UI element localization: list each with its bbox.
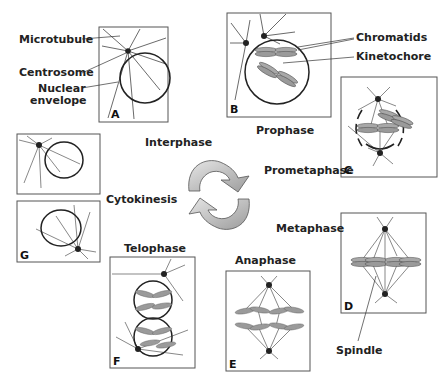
panel-letter-f: F: [113, 356, 121, 367]
label-anaphase: Anaphase: [235, 255, 296, 267]
label-centrosome: Centrosome: [19, 67, 94, 79]
label-chromatids: Chromatids: [356, 32, 427, 44]
panel-letter-e: E: [229, 359, 237, 370]
label-envelope: envelope: [30, 95, 80, 107]
label-kinetochore: Kinetochore: [356, 51, 431, 63]
label-cytokinesis: Cytokinesis: [106, 194, 177, 206]
mitosis-diagram: Microtubule Centrosome Nuclear envelope …: [0, 0, 443, 382]
label-microtubule: Microtubule: [19, 34, 93, 46]
panel-letter-c: C: [344, 165, 352, 176]
panel-interphase-cell: [17, 134, 100, 194]
panel-letter-b: B: [230, 104, 238, 115]
panel-d: [341, 213, 426, 341]
panel-letter-g: G: [20, 250, 29, 261]
label-prometaphase: Prometaphase: [264, 165, 354, 177]
panel-c: [341, 77, 437, 177]
panel-f: [110, 257, 195, 368]
label-telophase: Telophase: [124, 243, 186, 255]
panel-b: [227, 13, 354, 117]
label-interphase: Interphase: [145, 137, 212, 149]
label-spindle: Spindle: [336, 345, 383, 357]
panel-letter-d: D: [344, 301, 353, 312]
panel-g: [17, 201, 100, 262]
label-prophase: Prophase: [256, 125, 314, 137]
label-metaphase: Metaphase: [276, 223, 344, 235]
panel-a: [99, 27, 170, 122]
panel-letter-a: A: [111, 109, 120, 120]
circular-arrows-icon: [189, 161, 250, 230]
panel-e: [226, 271, 310, 371]
